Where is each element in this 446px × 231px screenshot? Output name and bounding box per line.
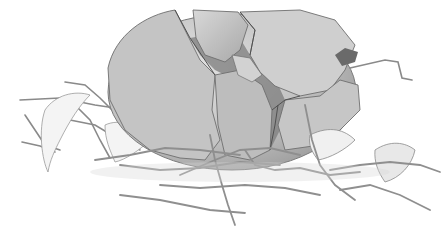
cracked-egg-nest-illustration [0,0,446,231]
nest-shadow [90,162,390,182]
twig-right-top [350,60,412,80]
